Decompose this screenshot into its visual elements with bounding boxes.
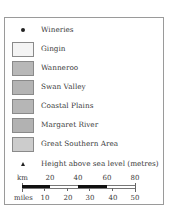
mile-tick	[67, 188, 68, 191]
region-swatch	[12, 61, 34, 76]
miles-label: miles	[14, 194, 33, 202]
km-tick: 80	[131, 174, 140, 182]
legend-label: Great Southern Area	[41, 138, 118, 150]
scale-segment-dark	[22, 185, 50, 188]
mile-tick	[112, 188, 113, 191]
region-swatch	[12, 137, 34, 152]
height-triangle-icon	[21, 162, 25, 166]
mile-tick-label: 30	[86, 194, 95, 202]
scale-segment-dark	[78, 185, 107, 188]
legend-item-swan-valley: Swan Valley	[5, 80, 163, 96]
km-tick: 40	[74, 174, 83, 182]
km-label: km	[17, 174, 28, 182]
scale-bar: km 20 40 60 80 miles 10 20 30 40 50	[5, 169, 163, 205]
legend-label: Wineries	[41, 24, 74, 36]
km-tick: 20	[46, 174, 55, 182]
region-swatch	[12, 42, 34, 57]
legend-label: Swan Valley	[41, 81, 86, 93]
legend-item-great-southern: Great Southern Area	[5, 137, 163, 153]
winery-dot-icon	[21, 28, 25, 32]
legend-item-margaret-river: Margaret River	[5, 118, 163, 134]
legend-item-gingin: Gingin	[5, 42, 163, 58]
legend-label: Margaret River	[41, 119, 98, 131]
legend-item-wanneroo: Wanneroo	[5, 61, 163, 77]
mile-tick-label: 50	[131, 194, 140, 202]
mile-tick-label: 20	[64, 194, 73, 202]
legend-item-wineries: Wineries	[5, 23, 163, 39]
region-swatch	[12, 118, 34, 133]
scale-tick	[135, 183, 136, 192]
map-legend: Wineries Gingin Wanneroo Swan Valley Coa…	[4, 17, 164, 205]
legend-label: Coastal Plains	[41, 100, 93, 112]
km-tick: 60	[103, 174, 112, 182]
region-swatch	[12, 99, 34, 114]
legend-label: Gingin	[41, 43, 66, 55]
mile-tick	[44, 188, 45, 191]
mile-tick-label: 40	[109, 194, 118, 202]
region-swatch	[12, 80, 34, 95]
legend-item-coastal-plains: Coastal Plains	[5, 99, 163, 115]
mile-tick	[89, 188, 90, 191]
mile-tick-label: 10	[41, 194, 50, 202]
legend-label: Wanneroo	[41, 62, 78, 74]
